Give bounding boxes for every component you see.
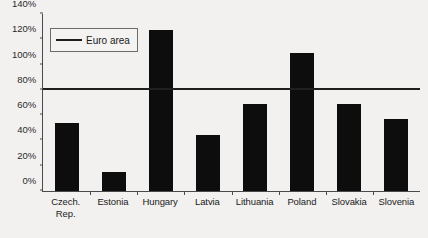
y-axis-tick-label: 120% <box>12 23 43 34</box>
bar-lithuania <box>243 104 267 191</box>
bar-estonia <box>102 172 126 191</box>
x-axis-labels: Czech.Rep.EstoniaHungaryLatviaLithuaniaP… <box>42 196 420 219</box>
chart-legend: Euro area <box>50 28 138 52</box>
x-axis-tick-mark <box>373 191 374 195</box>
x-axis-label-line: Czech. <box>51 196 80 207</box>
x-axis-label-slovenia: Slovenia <box>373 196 420 219</box>
x-axis-label-line: Slovakia <box>332 196 367 207</box>
legend-line-swatch-euro-area <box>56 39 82 41</box>
bar-hungary <box>149 30 173 191</box>
euro-area-reference-line <box>43 88 420 90</box>
bar-cell <box>279 14 326 191</box>
x-axis-tick-mark <box>90 191 91 195</box>
x-axis-label-line: Estonia <box>97 196 128 207</box>
x-axis-label-poland: Poland <box>278 196 325 219</box>
bar-slovakia <box>337 104 361 191</box>
x-axis-tick-mark <box>232 191 233 195</box>
x-axis-tick-mark <box>326 191 327 195</box>
bar-slovenia <box>384 119 408 191</box>
bar-cell <box>137 14 184 191</box>
y-axis-tick-label: 100% <box>12 48 43 59</box>
bar-chart: 0%20%40%60%80%100%120%140% Euro area Cze… <box>0 0 428 238</box>
x-axis-label-line: Hungary <box>143 196 178 207</box>
x-axis-label-line: Rep. <box>42 208 89 220</box>
x-axis-tick-mark <box>137 191 138 195</box>
x-axis-label-line: Lithuania <box>236 196 274 207</box>
bar-czech-rep <box>55 123 79 191</box>
y-axis-tick-label: 140% <box>12 0 43 9</box>
y-axis-tick-label: 40% <box>17 124 43 135</box>
y-axis-tick-label: 60% <box>17 99 43 110</box>
y-axis-tick-label: 80% <box>17 73 43 84</box>
bar-cell <box>232 14 279 191</box>
x-axis-label-hungary: Hungary <box>137 196 184 219</box>
bar-poland <box>290 53 314 191</box>
bar-latvia <box>196 135 220 191</box>
x-axis-label-lithuania: Lithuania <box>231 196 278 219</box>
x-axis-label-line: Poland <box>287 196 316 207</box>
x-axis-label-line: Latvia <box>195 196 220 207</box>
x-axis-tick-mark <box>279 191 280 195</box>
x-axis-label-czech-rep: Czech.Rep. <box>42 196 89 219</box>
y-axis-tick-label: 20% <box>17 149 43 160</box>
bar-cell <box>373 14 420 191</box>
x-axis-label-estonia: Estonia <box>89 196 136 219</box>
x-axis-label-slovakia: Slovakia <box>326 196 373 219</box>
y-axis-tick-label: 0% <box>22 175 43 186</box>
bar-cell <box>184 14 231 191</box>
x-axis-tick-mark <box>184 191 185 195</box>
x-axis-label-latvia: Latvia <box>184 196 231 219</box>
legend-label-euro-area: Euro area <box>86 35 130 46</box>
x-axis-label-line: Slovenia <box>379 196 415 207</box>
bar-cell <box>326 14 373 191</box>
